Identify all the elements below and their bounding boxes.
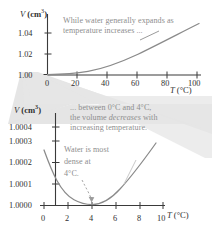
bottom-x-tick-2: 2 xyxy=(65,214,69,223)
minimum-callout-arrow xyxy=(82,180,94,202)
top-x-tick-20: 20 xyxy=(71,79,79,88)
top-x-tick-40: 40 xyxy=(101,79,109,88)
top-y-tick-104: 1.04 xyxy=(18,29,33,38)
top-x-tick-80: 80 xyxy=(161,79,169,88)
bottom-x-tick-10: 10 xyxy=(157,214,165,223)
bottom-annotation-line-1: ... between 0°C and 4°C, xyxy=(70,103,151,113)
top-annotation-line-1: While water generally expands as xyxy=(63,16,174,26)
bottom-x-tick-4: 4 xyxy=(89,214,93,223)
bottom-y-axis-label: V (cm3) xyxy=(14,103,41,115)
bottom-x-tick-8: 8 xyxy=(137,214,141,223)
water-volume-figure: V (cm3) 1.04 1.02 1.00 0 20 40 60 80 100… xyxy=(0,0,212,246)
top-y-tick-100: 1.00 xyxy=(18,71,33,80)
top-y-axis-label: V (cm3) xyxy=(20,7,47,19)
bottom-annotation-emphasis: decreases xyxy=(109,113,141,122)
bottom-y-tick-10003: 1.0003 xyxy=(9,137,32,146)
bottom-y-tick-10002: 1.0002 xyxy=(9,158,32,167)
top-x-tick-60: 60 xyxy=(131,79,139,88)
callout-line-3: 4°C. xyxy=(64,169,79,179)
callout-line-2: dense at xyxy=(64,157,91,167)
bottom-annotation-text-b: with xyxy=(141,113,158,122)
top-y-tick-102: 1.02 xyxy=(18,50,33,59)
bottom-annotation-line-3: increasing temperature. xyxy=(70,123,147,133)
bottom-x-tick-6: 6 xyxy=(113,214,117,223)
top-x-axis-label: T (°C) xyxy=(170,86,192,95)
callout-line-1: Water is most xyxy=(64,145,109,155)
bottom-y-tick-10000: 1.0000 xyxy=(9,201,32,210)
bottom-annotation-text-a: the volume xyxy=(70,113,109,122)
top-annotation-line-2: temperature increases ... xyxy=(63,26,143,36)
bottom-y-tick-10004: 1.0004 xyxy=(9,123,32,132)
top-x-tick-0: 0 xyxy=(45,79,49,88)
bottom-x-axis-label: T (°C) xyxy=(167,211,189,220)
bottom-x-tick-0: 0 xyxy=(41,214,45,223)
bottom-y-tick-10001: 1.0001 xyxy=(9,180,32,189)
top-annotation-pointer xyxy=(140,31,159,40)
bottom-annotation-line-2: the volume decreases with xyxy=(70,113,158,123)
